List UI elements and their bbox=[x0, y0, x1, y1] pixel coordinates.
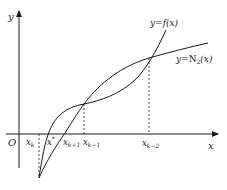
x-axis-label: x bbox=[208, 140, 214, 151]
origin-label: O bbox=[8, 137, 16, 148]
curve-f bbox=[39, 30, 166, 178]
tick-xkm2: xk−2 bbox=[142, 138, 159, 149]
tick-xstar: x* bbox=[47, 135, 55, 147]
diagram-canvas: y x O y=f(x) y=N2(x) xk x* xk+1 xk−1 xk−… bbox=[0, 0, 227, 190]
label-n2: y=N2(x) bbox=[175, 54, 213, 65]
tick-xk1: xk+1 bbox=[63, 137, 80, 148]
tick-xkm1: xk−1 bbox=[83, 137, 100, 148]
label-f: y=f(x) bbox=[149, 18, 179, 28]
y-axis-label: y bbox=[7, 11, 14, 22]
tick-xk: xk bbox=[26, 137, 35, 148]
